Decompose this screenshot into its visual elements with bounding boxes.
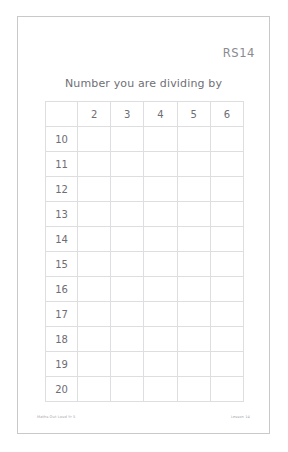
answer-cell-20-2[interactable]: [78, 377, 111, 402]
answer-cell-12-3[interactable]: [111, 177, 144, 202]
answer-cell-11-2[interactable]: [78, 152, 111, 177]
answer-cell-18-4[interactable]: [144, 327, 177, 352]
answer-cell-13-5[interactable]: [177, 202, 210, 227]
answer-cell-10-4[interactable]: [144, 127, 177, 152]
answer-cell-12-2[interactable]: [78, 177, 111, 202]
answer-cell-19-3[interactable]: [111, 352, 144, 377]
answer-cell-18-6[interactable]: [210, 327, 243, 352]
answer-cell-19-5[interactable]: [177, 352, 210, 377]
row-header-13: 13: [46, 202, 78, 227]
answer-cell-15-3[interactable]: [111, 252, 144, 277]
table-row: 19: [46, 352, 244, 377]
answer-cell-14-6[interactable]: [210, 227, 243, 252]
answer-cell-13-6[interactable]: [210, 202, 243, 227]
answer-cell-18-5[interactable]: [177, 327, 210, 352]
answer-cell-14-2[interactable]: [78, 227, 111, 252]
answer-cell-18-3[interactable]: [111, 327, 144, 352]
answer-cell-11-5[interactable]: [177, 152, 210, 177]
answer-cell-20-5[interactable]: [177, 377, 210, 402]
answer-cell-11-3[interactable]: [111, 152, 144, 177]
answer-cell-12-4[interactable]: [144, 177, 177, 202]
table-row: 15: [46, 252, 244, 277]
column-header-2: 2: [78, 102, 111, 127]
answer-cell-12-6[interactable]: [210, 177, 243, 202]
footer-source-label: Maths Out Loud Yr 5: [37, 415, 76, 419]
answer-cell-20-6[interactable]: [210, 377, 243, 402]
table-row: 13: [46, 202, 244, 227]
answer-cell-16-5[interactable]: [177, 277, 210, 302]
row-header-16: 16: [46, 277, 78, 302]
table-row: 17: [46, 302, 244, 327]
answer-cell-10-2[interactable]: [78, 127, 111, 152]
row-header-19: 19: [46, 352, 78, 377]
row-header-14: 14: [46, 227, 78, 252]
answer-cell-15-2[interactable]: [78, 252, 111, 277]
table-row: 11: [46, 152, 244, 177]
answer-cell-13-3[interactable]: [111, 202, 144, 227]
answer-cell-16-2[interactable]: [78, 277, 111, 302]
answer-cell-10-6[interactable]: [210, 127, 243, 152]
answer-cell-19-4[interactable]: [144, 352, 177, 377]
answer-cell-15-6[interactable]: [210, 252, 243, 277]
column-header-6: 6: [210, 102, 243, 127]
table-row: 12: [46, 177, 244, 202]
answer-cell-20-4[interactable]: [144, 377, 177, 402]
answer-cell-16-6[interactable]: [210, 277, 243, 302]
answer-cell-13-4[interactable]: [144, 202, 177, 227]
row-header-12: 12: [46, 177, 78, 202]
answer-cell-14-4[interactable]: [144, 227, 177, 252]
answer-cell-16-4[interactable]: [144, 277, 177, 302]
answer-cell-15-5[interactable]: [177, 252, 210, 277]
table-row: 16: [46, 277, 244, 302]
answer-cell-10-5[interactable]: [177, 127, 210, 152]
page-title: Number you are dividing by: [18, 77, 269, 90]
answer-cell-20-3[interactable]: [111, 377, 144, 402]
answer-cell-17-4[interactable]: [144, 302, 177, 327]
division-grid-container: 2 3 4 5 6 10 11: [45, 101, 243, 402]
table-header-row: 2 3 4 5 6: [46, 102, 244, 127]
answer-cell-12-5[interactable]: [177, 177, 210, 202]
answer-cell-11-4[interactable]: [144, 152, 177, 177]
footer-lesson-label: Lesson 14: [231, 415, 250, 419]
sheet-code-label: RS14: [223, 46, 255, 60]
answer-cell-19-6[interactable]: [210, 352, 243, 377]
row-header-18: 18: [46, 327, 78, 352]
row-header-17: 17: [46, 302, 78, 327]
answer-cell-15-4[interactable]: [144, 252, 177, 277]
table-row: 20: [46, 377, 244, 402]
answer-cell-11-6[interactable]: [210, 152, 243, 177]
column-header-3: 3: [111, 102, 144, 127]
answer-cell-17-5[interactable]: [177, 302, 210, 327]
table-row: 10: [46, 127, 244, 152]
row-header-11: 11: [46, 152, 78, 177]
answer-cell-19-2[interactable]: [78, 352, 111, 377]
row-header-10: 10: [46, 127, 78, 152]
answer-cell-18-2[interactable]: [78, 327, 111, 352]
column-header-5: 5: [177, 102, 210, 127]
answer-cell-14-5[interactable]: [177, 227, 210, 252]
column-header-4: 4: [144, 102, 177, 127]
answer-cell-17-3[interactable]: [111, 302, 144, 327]
row-header-15: 15: [46, 252, 78, 277]
answer-cell-10-3[interactable]: [111, 127, 144, 152]
answer-cell-17-2[interactable]: [78, 302, 111, 327]
table-row: 18: [46, 327, 244, 352]
division-grid-table: 2 3 4 5 6 10 11: [45, 101, 244, 402]
table-row: 14: [46, 227, 244, 252]
worksheet-page: RS14 Number you are dividing by 2 3 4 5 …: [17, 16, 270, 434]
grid-corner-cell: [46, 102, 78, 127]
row-header-20: 20: [46, 377, 78, 402]
answer-cell-14-3[interactable]: [111, 227, 144, 252]
answer-cell-17-6[interactable]: [210, 302, 243, 327]
answer-cell-13-2[interactable]: [78, 202, 111, 227]
answer-cell-16-3[interactable]: [111, 277, 144, 302]
